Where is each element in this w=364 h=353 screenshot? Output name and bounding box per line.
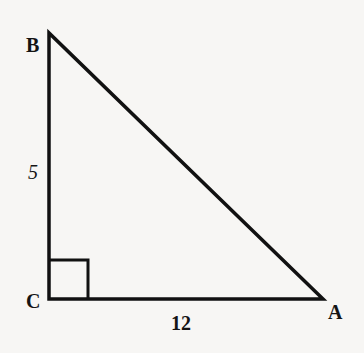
side-label-bc: 5 (28, 162, 38, 182)
vertex-label-b: B (26, 35, 39, 55)
vertex-label-c: C (26, 291, 40, 311)
triangle-abc (49, 33, 323, 299)
side-label-ca: 12 (171, 313, 191, 333)
vertex-label-a: A (328, 302, 342, 322)
triangle-diagram (0, 0, 364, 353)
right-angle-marker (49, 260, 88, 299)
